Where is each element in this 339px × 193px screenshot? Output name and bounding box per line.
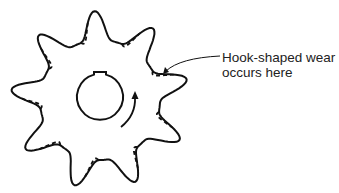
- rotation-arrowhead-icon: [132, 91, 139, 99]
- wear-annotation: Hook-shaped wear occurs here: [222, 50, 335, 80]
- annotation-line-2: occurs here: [222, 65, 335, 80]
- sprocket-outline: [12, 11, 187, 185]
- wear-mark: [81, 23, 88, 44]
- bore-with-keyway: [77, 72, 123, 120]
- leader-line: [166, 56, 220, 71]
- sprocket-diagram: [0, 0, 339, 193]
- annotation-line-1: Hook-shaped wear: [222, 50, 335, 65]
- leader-arrowhead-icon: [163, 67, 169, 74]
